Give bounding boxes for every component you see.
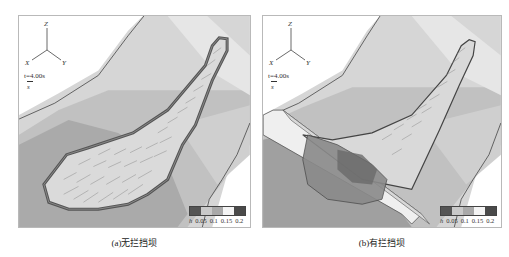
legend-swatch	[201, 207, 212, 215]
legend-swatch	[452, 207, 463, 215]
panel-with-dam: Z X Y t=4.00s s h 0.05 0.1 0.15 0.2	[262, 15, 502, 228]
legend-tick: 0.2	[486, 217, 494, 224]
vector-arrow-icon	[27, 81, 33, 82]
vector-symbol: s	[27, 83, 30, 91]
depth-legend: h 0.05 0.1 0.15 0.2	[189, 206, 246, 224]
legend-tick: 0.05	[446, 217, 457, 224]
caption-no-dam: (a)无拦挡坝	[18, 236, 251, 249]
legend-swatch	[463, 207, 474, 215]
panel-no-dam: Z X Y t=4.00s s h 0.05 0.1 0.15 0.2	[18, 15, 251, 228]
vector-label: s	[27, 81, 33, 91]
legend-colorbar	[189, 206, 246, 216]
axis-z-label: Z	[288, 20, 292, 28]
legend-tick: 0.05	[195, 217, 206, 224]
legend-swatch	[190, 207, 201, 215]
legend-swatch	[223, 207, 234, 215]
axis-x-label: X	[25, 59, 29, 67]
depth-legend: h 0.05 0.1 0.15 0.2	[440, 206, 497, 224]
axis-x-label: X	[269, 59, 273, 67]
legend-swatch	[234, 207, 245, 215]
vector-label: s	[271, 81, 277, 91]
legend-swatch	[474, 207, 485, 215]
time-label: t=4.00s	[268, 72, 289, 80]
legend-swatch	[441, 207, 452, 215]
legend-tick: 0.15	[221, 217, 232, 224]
caption-with-dam: (b)有拦挡坝	[262, 236, 502, 249]
legend-tick: 0.15	[472, 217, 483, 224]
axis-y-label: Y	[306, 59, 310, 67]
legend-variable: h	[189, 217, 192, 224]
legend-tick: 0.2	[235, 217, 243, 224]
legend-colorbar	[440, 206, 497, 216]
time-label: t=4.00s	[24, 72, 45, 80]
legend-tick: 0.1	[210, 217, 218, 224]
legend-swatch	[212, 207, 223, 215]
legend-swatch	[485, 207, 496, 215]
legend-tick: 0.1	[461, 217, 469, 224]
legend-ticks: h 0.05 0.1 0.15 0.2	[440, 217, 497, 224]
legend-ticks: h 0.05 0.1 0.15 0.2	[189, 217, 246, 224]
axis-z-label: Z	[44, 20, 48, 28]
legend-variable: h	[440, 217, 443, 224]
vector-arrow-icon	[271, 81, 277, 82]
vector-symbol: s	[271, 83, 274, 91]
axis-y-label: Y	[62, 59, 66, 67]
